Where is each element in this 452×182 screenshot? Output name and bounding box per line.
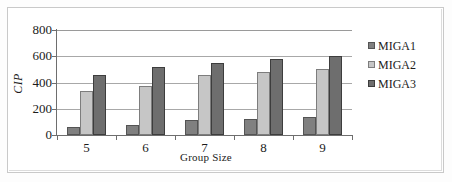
legend: MIGA1MIGA2MIGA3 xyxy=(368,36,438,93)
legend-label-MIGA3: MIGA3 xyxy=(378,78,416,90)
bar-MIGA2-9 xyxy=(316,69,329,135)
bar-group-6 xyxy=(126,30,165,135)
bar-group-7 xyxy=(185,30,224,135)
y-tick-mark-400 xyxy=(52,83,57,84)
y-tick-label-400: 400 xyxy=(18,76,52,89)
legend-item-MIGA3: MIGA3 xyxy=(368,74,438,93)
bar-MIGA2-6 xyxy=(139,86,152,135)
bar-MIGA3-9 xyxy=(329,56,342,135)
y-tick-label-200: 200 xyxy=(18,102,52,115)
x-axis-line xyxy=(56,135,353,136)
bar-MIGA3-5 xyxy=(93,75,106,135)
y-axis-tick-labels: 0200400600800 xyxy=(12,0,52,182)
legend-item-MIGA1: MIGA1 xyxy=(368,36,438,55)
bar-group-9 xyxy=(303,30,342,135)
bar-group-5 xyxy=(67,30,106,135)
bar-MIGA2-8 xyxy=(257,72,270,135)
bar-MIGA3-7 xyxy=(211,63,224,135)
x-tick-mark-3 xyxy=(234,136,235,140)
y-tick-label-600: 600 xyxy=(18,49,52,62)
bar-MIGA1-8 xyxy=(244,119,257,135)
legend-swatch-icon-MIGA2 xyxy=(368,61,375,68)
y-tick-label-800: 800 xyxy=(18,23,52,36)
legend-label-MIGA2: MIGA2 xyxy=(378,59,416,71)
figure-container: CIP 0200400600800 56789 Group Size MIGA1… xyxy=(0,0,452,182)
legend-item-MIGA2: MIGA2 xyxy=(368,55,438,74)
y-tick-mark-200 xyxy=(52,109,57,110)
x-tick-mark-4 xyxy=(293,136,294,140)
x-axis-title: Group Size xyxy=(156,151,256,163)
legend-label-MIGA1: MIGA1 xyxy=(378,40,416,52)
x-tick-mark-1 xyxy=(116,136,117,140)
bar-MIGA1-7 xyxy=(185,120,198,135)
plot-area xyxy=(57,30,352,135)
x-tick-label-9: 9 xyxy=(303,141,343,154)
x-tick-mark-2 xyxy=(175,136,176,140)
bar-MIGA1-9 xyxy=(303,117,316,135)
x-tick-mark-0 xyxy=(57,136,58,140)
legend-swatch-icon-MIGA3 xyxy=(368,80,375,87)
bar-MIGA1-6 xyxy=(126,125,139,136)
bar-MIGA1-5 xyxy=(67,127,80,135)
y-tick-mark-600 xyxy=(52,56,57,57)
bar-MIGA2-5 xyxy=(80,91,93,135)
y-tick-mark-800 xyxy=(52,30,57,31)
bar-group-8 xyxy=(244,30,283,135)
y-tick-label-0: 0 xyxy=(18,128,52,141)
bar-MIGA2-7 xyxy=(198,75,211,135)
bar-MIGA3-6 xyxy=(152,67,165,135)
legend-swatch-icon-MIGA1 xyxy=(368,42,375,49)
x-tick-label-5: 5 xyxy=(67,141,107,154)
x-tick-mark-5 xyxy=(352,136,353,140)
bar-MIGA3-8 xyxy=(270,59,283,135)
